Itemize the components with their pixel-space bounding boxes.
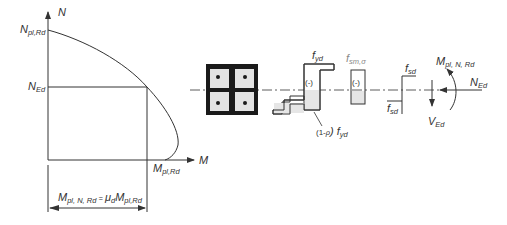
n-m-interaction-chart bbox=[48, 12, 194, 212]
concrete-stress-label: fsm,σ bbox=[346, 52, 366, 66]
concrete-stress-block bbox=[351, 70, 365, 104]
leader-line bbox=[314, 112, 322, 126]
rebar-stress-top: fsd bbox=[405, 62, 417, 76]
rebar-icon bbox=[216, 101, 220, 105]
steel-stress-block bbox=[273, 64, 334, 126]
axial-force-label: NEd bbox=[470, 76, 488, 90]
n-pl-rd-label: Npl,Rd bbox=[20, 23, 46, 37]
composite-cross-section bbox=[206, 64, 258, 115]
m-pl-rd-label: Mpl,Rd bbox=[153, 162, 181, 176]
composite-section-interaction-diagram: N M Npl,Rd NEd Mpl,Rd Mpl, N, Rd = μdMpl… bbox=[0, 0, 507, 225]
m-axis-label: M bbox=[199, 154, 209, 166]
steel-stress-label: fyd bbox=[312, 49, 324, 63]
concrete-fill-tl bbox=[210, 69, 229, 88]
n-ed-label: NEd bbox=[28, 80, 46, 94]
n-axis-label: N bbox=[58, 6, 66, 18]
moment-label: Mpl, N, Rd bbox=[436, 55, 475, 69]
concrete-sign: (-) bbox=[352, 78, 360, 87]
dimension-formula: Mpl, N, Rd = μdMpl,Rd bbox=[58, 191, 143, 205]
steel-reduced-label: (1-ρ) fyd bbox=[316, 125, 349, 139]
rebar-stress-bottom: fsd bbox=[387, 102, 399, 116]
rebar-icon bbox=[243, 101, 247, 105]
rebar-icon bbox=[216, 75, 220, 79]
rebar-icon bbox=[243, 75, 247, 79]
steel-sign: (-) bbox=[305, 78, 313, 87]
concrete-fill-bl bbox=[210, 92, 229, 111]
shear-force-label: VEd bbox=[428, 115, 445, 129]
interaction-curve bbox=[48, 30, 178, 160]
